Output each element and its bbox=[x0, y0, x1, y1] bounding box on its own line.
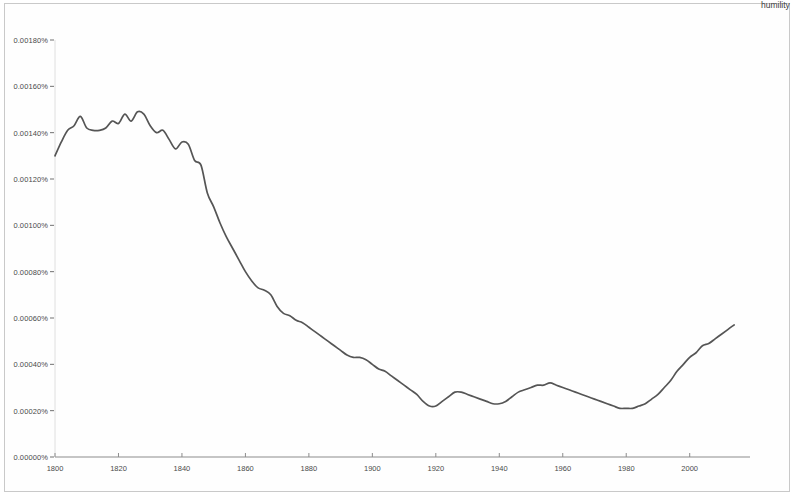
y-axis-tick-label: 0.00160% bbox=[0, 82, 48, 91]
y-axis-tick-label: 0.00020% bbox=[0, 406, 48, 415]
y-axis-tick-label: 0.00140% bbox=[0, 128, 48, 137]
x-axis-tick-label: 1800 bbox=[47, 464, 64, 473]
x-axis-tick-label: 1940 bbox=[491, 464, 508, 473]
x-axis-tick-label: 2000 bbox=[681, 464, 698, 473]
x-axis-tick-label: 1900 bbox=[364, 464, 381, 473]
y-axis-tick-label: 0.00120% bbox=[0, 175, 48, 184]
y-axis-tick-label: 0.00040% bbox=[0, 360, 48, 369]
series-line-humility bbox=[55, 111, 734, 408]
x-axis-tick-label: 1980 bbox=[618, 464, 635, 473]
y-axis-tick-label: 0.00000% bbox=[0, 453, 48, 462]
chart-plot-svg bbox=[0, 0, 796, 497]
x-axis-tick-label: 1920 bbox=[427, 464, 444, 473]
series-label-humility: humility bbox=[761, 0, 790, 10]
y-axis-tickmarks bbox=[50, 40, 54, 457]
x-axis-tick-label: 1840 bbox=[174, 464, 191, 473]
y-axis-tick-label: 0.00100% bbox=[0, 221, 48, 230]
x-axis-tick-label: 1960 bbox=[554, 464, 571, 473]
x-axis-tick-label: 1820 bbox=[110, 464, 127, 473]
axis-lines bbox=[55, 40, 750, 457]
y-axis-tick-label: 0.00080% bbox=[0, 267, 48, 276]
x-axis-tick-label: 1880 bbox=[301, 464, 318, 473]
x-axis-tick-label: 1860 bbox=[237, 464, 254, 473]
y-axis-tick-label: 0.00060% bbox=[0, 314, 48, 323]
ngram-chart-page: 0.00180%0.00160%0.00140%0.00120%0.00100%… bbox=[0, 0, 796, 497]
y-axis-tick-label: 0.00180% bbox=[0, 36, 48, 45]
